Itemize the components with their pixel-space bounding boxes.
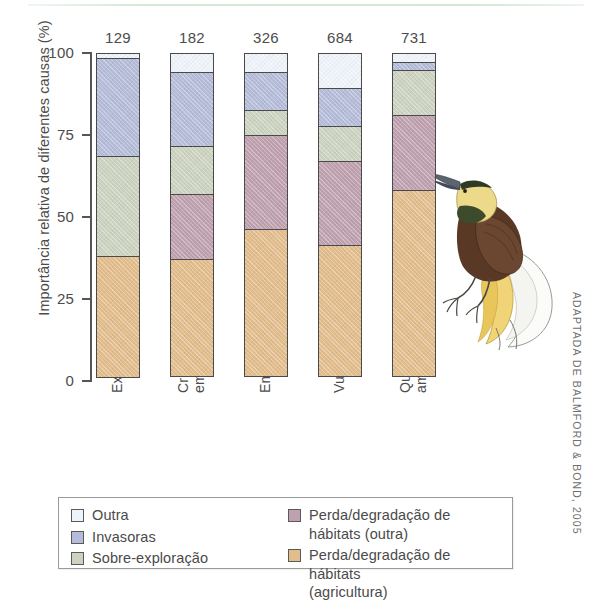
legend-label: Perda/degradação de hábitats (outra) (309, 506, 502, 543)
bird-of-paradise-illustration (424, 150, 564, 350)
legend-label: Invasoras (92, 528, 156, 547)
bar-segment (318, 161, 362, 246)
bar-segment (170, 53, 214, 73)
bar-count-label: 182 (179, 29, 205, 46)
legend-item: Sobre-exploração (71, 549, 267, 568)
legend-swatch (71, 552, 84, 565)
bar-segment (392, 190, 436, 377)
bar-segment (170, 72, 214, 147)
legend-swatch (71, 531, 84, 544)
bar-segment (244, 53, 288, 73)
legend-column-left: OutraInvasorasSobre-exploração (71, 506, 267, 562)
legend-swatch (71, 509, 84, 522)
bar-count-label: 731 (401, 29, 427, 46)
stacked-bar: 326Em perigo (244, 53, 288, 381)
bar-segment (244, 135, 288, 230)
y-tick-label: 100 (32, 44, 74, 61)
legend-swatch (288, 509, 301, 522)
legend-item: Outra (71, 506, 267, 525)
y-tick-label: 25 (32, 290, 74, 307)
bar-count-label: 684 (327, 29, 353, 46)
bar-segment (170, 194, 214, 260)
bar-segment (318, 245, 362, 376)
legend-label: Sobre-exploração (92, 549, 208, 568)
legend-item: Invasoras (71, 528, 267, 547)
bar-segment (170, 146, 214, 195)
bar-count-label: 129 (105, 29, 131, 46)
bar-segment (244, 110, 288, 136)
bar-segment (392, 115, 436, 190)
bar-segment (96, 156, 140, 258)
y-axis-line (90, 52, 92, 382)
bar-segment (392, 70, 436, 116)
bar-segment (318, 88, 362, 127)
y-tick-mark (82, 298, 90, 300)
y-tick-mark (82, 134, 90, 136)
plot-area: 129Extinta182Criticamente em perigo326Em… (96, 53, 436, 381)
bar-segment (244, 72, 288, 111)
y-tick-mark (82, 380, 90, 382)
bar-segment (318, 126, 362, 162)
bar-segment (170, 259, 214, 377)
legend-column-right: Perda/degradação de hábitats (outra)Perd… (288, 506, 502, 562)
stacked-bar: 129Extinta (96, 53, 140, 381)
stacked-bar: 182Criticamente em perigo (170, 53, 214, 381)
source-credit: ADAPTADA DE BALMFORD & BOND, 2005 (571, 292, 583, 535)
y-tick-mark (82, 52, 90, 54)
legend-label: Perda/degradação de hábitats (agricultur… (309, 546, 502, 602)
bar-segment (96, 256, 140, 377)
legend-column-spacer (267, 506, 288, 562)
bar-segment (96, 58, 140, 156)
stacked-bar: 684Vulnerável (318, 53, 362, 381)
y-tick-label: 75 (32, 126, 74, 143)
legend-label: Outra (92, 506, 129, 525)
legend-item: Perda/degradação de hábitats (agricultur… (288, 546, 502, 602)
legend-item: Perda/degradação de hábitats (outra) (288, 506, 502, 543)
y-tick-label: 50 (32, 208, 74, 225)
legend-swatch (288, 549, 301, 562)
y-tick-label: 0 (32, 372, 74, 389)
bar-segment (318, 53, 362, 89)
chart-legend: OutraInvasorasSobre-exploração Perda/deg… (58, 497, 513, 569)
bar-count-label: 326 (253, 29, 279, 46)
bar-segment (244, 229, 288, 377)
stacked-bar: 731Quase ameaçada (392, 53, 436, 381)
y-tick-mark (82, 216, 90, 218)
